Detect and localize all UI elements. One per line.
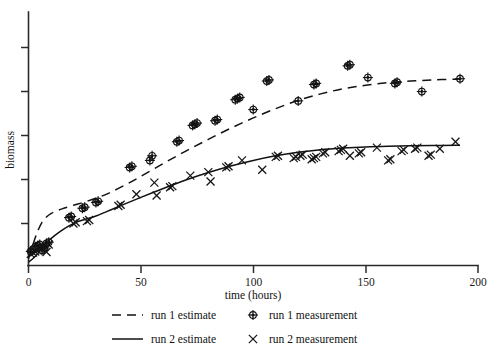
y-axis-title: biomass [4,131,16,169]
figure-container: 0 50 100 150 200 time (hours) biomass ru… [0,0,503,352]
biomass-growth-chart: 0 50 100 150 200 time (hours) biomass ru… [0,0,503,352]
x-axis-title: time (hours) [225,289,282,302]
legend-label-run1-estimate: run 1 estimate [151,309,216,321]
x-tick-label-150: 150 [357,276,375,288]
x-tick-label-100: 100 [245,276,263,288]
legend-label-run2-measurement: run 2 measurement [269,333,358,345]
x-tick-label-200: 200 [469,276,487,288]
legend-label-run2-estimate: run 2 estimate [151,333,216,345]
x-tick-label-50: 50 [135,276,147,288]
x-tick-label-0: 0 [26,276,32,288]
legend-label-run1-measurement: run 1 measurement [269,309,358,321]
